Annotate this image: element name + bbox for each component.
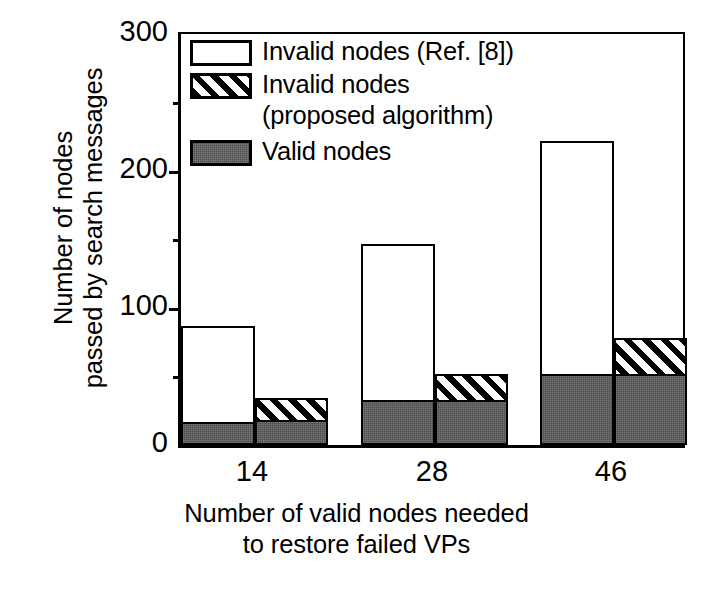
y-tick-label-300: 300 — [120, 17, 168, 46]
x-axis-title: Number of valid nodes needed to restore … — [0, 498, 713, 559]
y-tick-minor-150 — [173, 239, 181, 242]
y-tick-label-200: 200 — [120, 154, 168, 183]
y-tick-minor-50 — [173, 376, 181, 379]
x-tick-label-14: 14 — [236, 455, 268, 488]
x-axis-title-line-2: to restore failed VPs — [0, 529, 713, 560]
legend-swatch-hatch-icon — [190, 73, 252, 99]
legend-label-ref8: Invalid nodes (Ref. [8]) — [262, 36, 514, 68]
y-tick-major-200 — [169, 171, 181, 174]
y-tick-major-100 — [169, 308, 181, 311]
legend-swatch-open-icon — [190, 40, 252, 66]
legend-swatch-solid-icon — [190, 140, 252, 166]
x-axis-title-line-1: Number of valid nodes needed — [0, 498, 713, 529]
legend-item-proposed: Invalid nodes (proposed algorithm) — [190, 69, 660, 132]
legend-label-proposed: Invalid nodes (proposed algorithm) — [262, 69, 493, 132]
chart-legend: Invalid nodes (Ref. [8]) Invalid nodes (… — [190, 36, 660, 168]
bar-valid-28-left — [361, 400, 435, 445]
legend-item-valid: Valid nodes — [190, 136, 660, 168]
bar-valid-46-left — [540, 374, 614, 445]
legend-label-valid: Valid nodes — [262, 136, 391, 168]
x-tick-label-46: 46 — [595, 455, 627, 488]
y-tick-label-0: 0 — [152, 428, 168, 457]
bar-valid-28-right — [435, 400, 508, 445]
y-axis-title-line-1: Number of nodes — [49, 131, 79, 325]
y-tick-label-100: 100 — [120, 291, 168, 320]
bar-chart-figure: Number of nodes passed by search message… — [0, 0, 713, 595]
y-tick-minor-250 — [173, 102, 181, 105]
bar-valid-14-right — [255, 420, 328, 445]
x-tick-label-28: 28 — [416, 455, 448, 488]
bar-valid-14-left — [181, 422, 255, 445]
bar-valid-46-right — [614, 374, 687, 445]
legend-item-ref8: Invalid nodes (Ref. [8]) — [190, 36, 660, 68]
